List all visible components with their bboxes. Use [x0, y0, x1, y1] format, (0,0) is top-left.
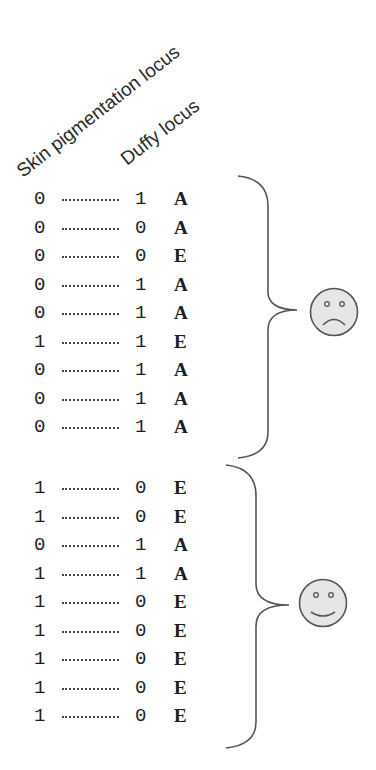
brace-group-1 [238, 176, 297, 458]
brace-and-face-overlay [0, 0, 376, 770]
brace-group-2 [226, 465, 289, 748]
happy-face-icon [300, 580, 347, 627]
sad-face-icon [311, 289, 358, 336]
